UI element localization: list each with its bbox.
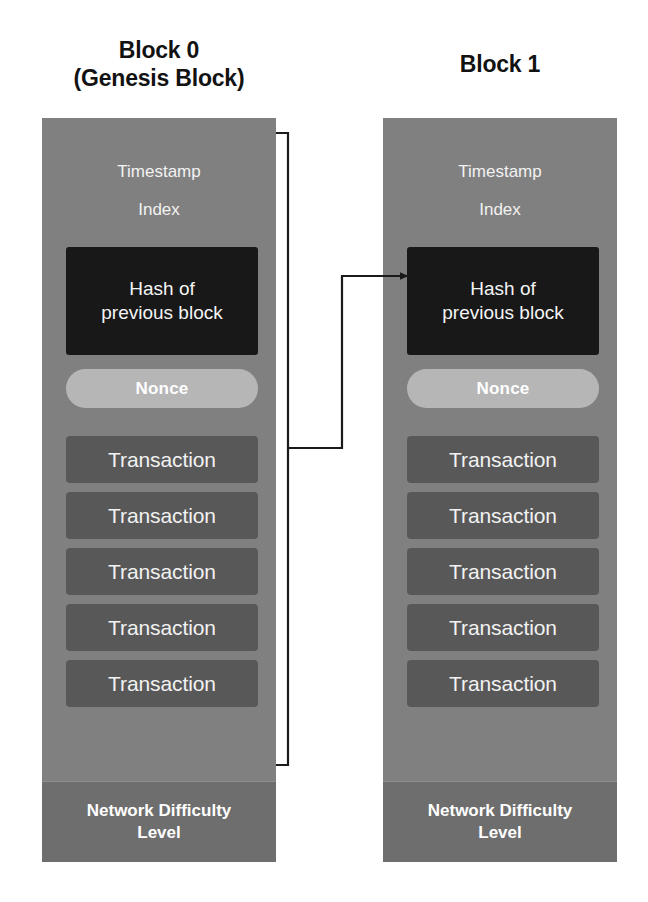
block-0-hash-of-previous-block[interactable]: Hash of previous block bbox=[66, 247, 258, 355]
block-0[interactable]: Timestamp Index Hash of previous block N… bbox=[42, 118, 276, 862]
transaction-row[interactable]: Transaction bbox=[66, 660, 258, 707]
transaction-row[interactable]: Transaction bbox=[407, 548, 599, 595]
transaction-label: Transaction bbox=[108, 672, 216, 696]
block-1-hash-label: Hash of previous block bbox=[442, 277, 563, 325]
block-1-timestamp-label: Timestamp bbox=[383, 162, 617, 182]
block-1-index-label: Index bbox=[383, 200, 617, 220]
block-1-title: Block 1 bbox=[382, 50, 618, 78]
transaction-row[interactable]: Transaction bbox=[407, 660, 599, 707]
block-0-network-difficulty[interactable]: Network Difficulty Level bbox=[42, 781, 276, 862]
transaction-label: Transaction bbox=[449, 616, 557, 640]
transaction-label: Transaction bbox=[108, 504, 216, 528]
transaction-row[interactable]: Transaction bbox=[407, 492, 599, 539]
transaction-row[interactable]: Transaction bbox=[66, 492, 258, 539]
block-1-hash-of-previous-block[interactable]: Hash of previous block bbox=[407, 247, 599, 355]
block-0-nonce[interactable]: Nonce bbox=[66, 369, 258, 408]
block-0-meta: Timestamp Index bbox=[42, 118, 276, 220]
transaction-row[interactable]: Transaction bbox=[66, 548, 258, 595]
transaction-label: Transaction bbox=[449, 448, 557, 472]
transaction-label: Transaction bbox=[108, 560, 216, 584]
block-1-transaction-list: Transaction Transaction Transaction Tran… bbox=[407, 436, 599, 707]
connector-outbound-path bbox=[276, 133, 288, 765]
transaction-row[interactable]: Transaction bbox=[66, 604, 258, 651]
block-1[interactable]: Timestamp Index Hash of previous block N… bbox=[383, 118, 617, 862]
transaction-label: Transaction bbox=[108, 616, 216, 640]
transaction-label: Transaction bbox=[449, 672, 557, 696]
transaction-label: Transaction bbox=[449, 560, 557, 584]
block-0-title: Block 0 (Genesis Block) bbox=[24, 36, 294, 92]
block-0-hash-label: Hash of previous block bbox=[101, 277, 222, 325]
block-1-nonce[interactable]: Nonce bbox=[407, 369, 599, 408]
transaction-row[interactable]: Transaction bbox=[407, 436, 599, 483]
transaction-row[interactable]: Transaction bbox=[66, 436, 258, 483]
block-1-network-difficulty-label: Network Difficulty Level bbox=[428, 800, 573, 844]
block-1-network-difficulty[interactable]: Network Difficulty Level bbox=[383, 781, 617, 862]
block-1-nonce-label: Nonce bbox=[477, 379, 530, 399]
block-0-timestamp-label: Timestamp bbox=[42, 162, 276, 182]
transaction-label: Transaction bbox=[449, 504, 557, 528]
block-1-meta: Timestamp Index bbox=[383, 118, 617, 220]
block-0-network-difficulty-label: Network Difficulty Level bbox=[87, 800, 232, 844]
transaction-label: Transaction bbox=[108, 448, 216, 472]
block-0-index-label: Index bbox=[42, 200, 276, 220]
block-0-transaction-list: Transaction Transaction Transaction Tran… bbox=[66, 436, 258, 707]
block-0-nonce-label: Nonce bbox=[136, 379, 189, 399]
transaction-row[interactable]: Transaction bbox=[407, 604, 599, 651]
diagram-canvas: Block 0 (Genesis Block) Block 1 Timestam… bbox=[0, 0, 648, 902]
